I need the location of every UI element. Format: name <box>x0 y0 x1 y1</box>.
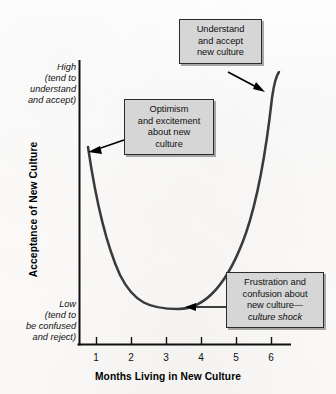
x-axis-title: Months Living in New Culture <box>0 371 336 382</box>
y-axis-title: Acceptance of New Culture <box>28 130 39 290</box>
annotation-line: about new <box>128 127 210 139</box>
y-low-line-4: and reject) <box>2 332 76 343</box>
y-high-line-3: understand <box>2 84 76 95</box>
y-high-line-1: High <box>2 62 76 73</box>
y-axis-high-annotation: High (tend to understand and accept) <box>2 62 76 106</box>
x-tick-label-5: 5 <box>226 352 246 363</box>
y-high-line-2: (tend to <box>2 73 76 84</box>
x-tick-label-4: 4 <box>191 352 211 363</box>
y-low-line-2: (tend to <box>2 310 76 321</box>
arrow-understand <box>228 72 265 92</box>
arrow-optimism <box>88 140 124 154</box>
annotation-line: new culture <box>183 47 258 59</box>
annotation-line: and accept <box>183 36 258 48</box>
x-axis-ticks <box>97 337 272 344</box>
y-high-line-4: and accept) <box>2 95 76 106</box>
annotation-line-emphasis: culture shock <box>230 312 320 324</box>
y-low-line-3: be confused <box>2 321 76 332</box>
arrow-frustration <box>185 303 226 311</box>
annotation-frustration-and-confusion: Frustration and confusion about new cult… <box>226 272 324 328</box>
annotation-line: Understand <box>183 24 258 36</box>
x-tick-label-6: 6 <box>261 352 281 363</box>
annotation-understand-and-accept: Understand and accept new culture <box>179 19 262 64</box>
annotation-line: and excitement <box>128 116 210 128</box>
annotation-line: confusion about <box>230 289 320 301</box>
annotation-line: Optimism <box>128 104 210 116</box>
y-low-line-1: Low <box>2 299 76 310</box>
x-tick-label-1: 1 <box>86 352 106 363</box>
culture-shock-curve-figure: Acceptance of New Culture High (tend to … <box>0 0 336 394</box>
y-axis-low-annotation: Low (tend to be confused and reject) <box>2 299 76 343</box>
x-tick-label-2: 2 <box>121 352 141 363</box>
annotation-optimism-and-excitement: Optimism and excitement about new cultur… <box>124 99 214 155</box>
annotation-line: new culture— <box>230 300 320 312</box>
x-tick-label-3: 3 <box>156 352 176 363</box>
annotation-line: Frustration and <box>230 277 320 289</box>
annotation-line: culture <box>128 139 210 151</box>
